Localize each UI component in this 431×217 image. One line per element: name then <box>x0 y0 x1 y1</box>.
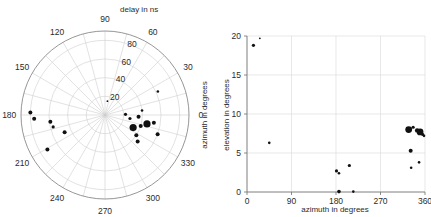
scatter-data-point <box>352 190 355 193</box>
figure-container: 030609012015018021024027030033020406080 … <box>0 0 431 217</box>
scatter-data-point <box>268 142 271 145</box>
polar-grid-layer <box>21 31 189 199</box>
polar-data-point <box>157 90 160 93</box>
polar-data-point <box>124 113 127 116</box>
scatter-plot-svg: 09018027036005101520 azimuth in degrees … <box>215 0 431 217</box>
polar-theta-tick-label: 30 <box>183 62 193 72</box>
polar-data-point <box>137 115 141 119</box>
polar-data-point <box>63 130 67 134</box>
scatter-data-point <box>418 161 421 164</box>
polar-theta-tick-label: 120 <box>50 27 64 37</box>
scatter-data-point <box>335 169 338 172</box>
scatter-x-tick-label: 0 <box>245 196 250 206</box>
scatter-y-tick-label: 20 <box>232 31 242 41</box>
polar-data-point <box>128 117 131 120</box>
scatter-data-point <box>405 126 412 133</box>
polar-theta-tick-label: 240 <box>50 193 64 203</box>
polar-radial-axis-title: delay in ns <box>120 5 158 14</box>
polar-data-point <box>156 132 160 136</box>
scatter-data-point <box>252 44 255 47</box>
polar-theta-tick-label: 180 <box>2 110 16 120</box>
polar-radial-tick-label: 40 <box>116 74 126 84</box>
polar-radial-tick-label: 60 <box>122 57 132 67</box>
scatter-data-point <box>337 190 341 194</box>
scatter-y-tick-label: 10 <box>232 109 242 119</box>
scatter-x-axis-title: azimuth in degrees <box>301 205 369 214</box>
polar-theta-tick-label: 150 <box>15 62 29 72</box>
polar-plot-svg: 030609012015018021024027030033020406080 … <box>0 0 215 217</box>
polar-data-point <box>48 120 52 124</box>
polar-data-point <box>130 124 137 131</box>
scatter-grid-layer <box>247 36 425 192</box>
polar-data-point <box>107 100 109 102</box>
scatter-y-tick-label: 0 <box>236 187 241 197</box>
polar-theta-tick-label: 270 <box>98 206 112 216</box>
polar-theta-tick-label: 300 <box>146 193 160 203</box>
scatter-y-axis-title: elevation in degrees <box>222 79 231 151</box>
polar-data-points <box>28 90 159 151</box>
polar-theta-tick-label: 330 <box>181 158 195 168</box>
scatter-data-point <box>409 149 413 153</box>
scatter-x-tick-label: 90 <box>287 196 297 206</box>
scatter-y-tick-label: 15 <box>232 70 242 80</box>
scatter-axis-layer <box>244 36 425 195</box>
scatter-data-point <box>338 172 341 175</box>
polar-plot-panel: 030609012015018021024027030033020406080 … <box>0 0 215 217</box>
polar-data-point <box>32 117 36 121</box>
scatter-data-point <box>410 167 413 170</box>
scatter-x-tick-label: 360 <box>418 196 431 206</box>
scatter-data-point <box>423 135 426 138</box>
polar-angular-axis-title: azimuth in degrees <box>200 81 209 149</box>
polar-data-point <box>141 109 144 112</box>
polar-data-point <box>152 121 156 125</box>
polar-data-point <box>134 133 138 137</box>
scatter-y-tick-label: 5 <box>236 148 241 158</box>
polar-data-point <box>45 148 49 152</box>
polar-data-point <box>143 120 150 127</box>
polar-radial-tick-label: 20 <box>110 92 120 102</box>
scatter-plot-panel: 09018027036005101520 azimuth in degrees … <box>215 0 431 217</box>
polar-radial-tick-label: 80 <box>127 39 137 49</box>
scatter-data-points <box>252 37 425 193</box>
scatter-x-tick-label: 270 <box>373 196 387 206</box>
scatter-data-point <box>259 37 261 39</box>
polar-data-point <box>52 125 55 128</box>
polar-theta-tick-label: 210 <box>15 158 29 168</box>
scatter-tick-labels: 09018027036005101520 <box>232 31 431 206</box>
polar-theta-tick-label: 60 <box>148 27 158 37</box>
polar-theta-tick-label: 90 <box>100 14 110 24</box>
polar-data-point <box>139 124 143 128</box>
scatter-data-point <box>412 126 415 129</box>
scatter-data-point <box>348 164 351 167</box>
polar-data-point <box>28 110 32 114</box>
polar-data-point <box>136 139 140 143</box>
